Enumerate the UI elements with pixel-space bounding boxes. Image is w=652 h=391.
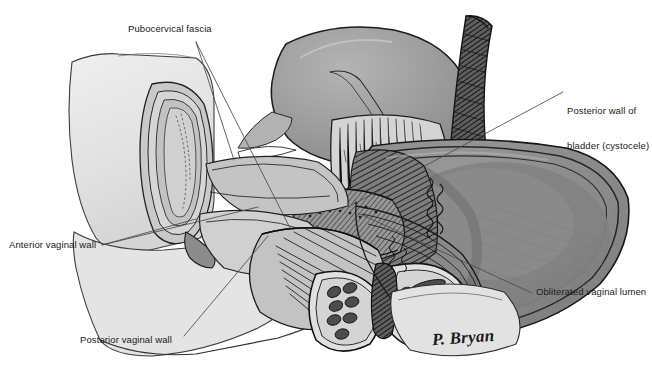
anatomical-figure: Pubocervical fascia Posterior wall of bl…: [0, 0, 652, 391]
label-pubocervical-fascia: Pubocervical fascia: [128, 23, 212, 35]
anatomy-illustration: [0, 0, 652, 391]
label-posterior-wall-line1: Posterior wall of: [567, 105, 649, 117]
label-posterior-wall-of-bladder: Posterior wall of bladder (cystocele): [567, 82, 649, 174]
label-anterior-vaginal-wall: Anterior vaginal wall: [9, 239, 96, 251]
label-obliterated-vaginal-lumen: Obliterated vaginal lumen: [536, 286, 646, 298]
label-posterior-wall-line2: bladder (cystocele): [567, 140, 649, 152]
label-posterior-vaginal-wall: Posterior vaginal wall: [80, 334, 172, 346]
